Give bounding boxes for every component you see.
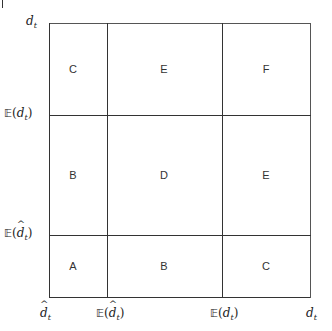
y-label-expected-dt: 𝔼(dt) xyxy=(4,106,32,122)
box-bottom-border xyxy=(49,297,311,298)
cell-middle-left: B xyxy=(69,169,76,181)
y-label-expected-dhat: 𝔼(^dt) xyxy=(4,226,32,242)
corner-mark xyxy=(2,0,3,8)
cell-middle-middle: D xyxy=(160,169,168,181)
box-right-border xyxy=(310,23,311,298)
x-label-expected-dhat: 𝔼(^dt) xyxy=(96,306,124,322)
x-label-dhat: ^dt xyxy=(40,306,51,322)
x-label-expected-dt: 𝔼(dt) xyxy=(210,306,238,322)
cell-top-right: F xyxy=(263,63,270,75)
x-label-dt: dt xyxy=(306,306,317,322)
cell-top-left: C xyxy=(69,63,77,75)
cell-bottom-right: C xyxy=(262,260,270,272)
box-left-border xyxy=(49,23,50,298)
cell-bottom-middle: B xyxy=(160,260,167,272)
cell-top-middle: E xyxy=(160,63,167,75)
cell-bottom-left: A xyxy=(69,260,76,272)
box-top-border xyxy=(49,23,311,24)
vertical-line-e-d xyxy=(222,23,223,298)
cell-middle-right: E xyxy=(262,169,269,181)
y-label-dt: dt xyxy=(26,14,37,30)
vertical-line-e-dhat xyxy=(107,23,108,298)
horizontal-line-e-dhat xyxy=(49,235,311,236)
horizontal-line-e-d xyxy=(49,115,311,116)
